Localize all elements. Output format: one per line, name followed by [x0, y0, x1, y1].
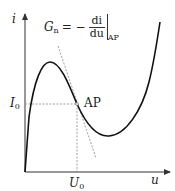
- x-axis-label: u: [151, 173, 159, 187]
- formula-eval-sub: AP: [108, 33, 119, 42]
- formula-fraction: di du: [89, 15, 105, 40]
- formula-lhs: Gn: [44, 20, 59, 35]
- y-axis-label: i: [12, 12, 16, 26]
- operating-point-label: AP: [84, 96, 101, 110]
- u0-label: U0: [69, 176, 84, 191]
- conductance-formula: Gn = − di du AP: [44, 14, 119, 40]
- diagram-canvas: i u I0 U0 AP Gn = − di du AP: [0, 0, 175, 191]
- operating-point-marker: [76, 103, 79, 106]
- formula-equals: = −: [62, 20, 86, 34]
- i0-label: I0: [10, 96, 20, 111]
